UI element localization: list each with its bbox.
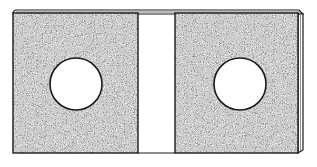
- right-panel: [175, 13, 298, 153]
- left-hole: [50, 58, 102, 110]
- slab-illustration: [0, 0, 317, 167]
- left-panel: [13, 13, 138, 153]
- right-hole: [214, 58, 266, 110]
- right-edge: [298, 14, 303, 153]
